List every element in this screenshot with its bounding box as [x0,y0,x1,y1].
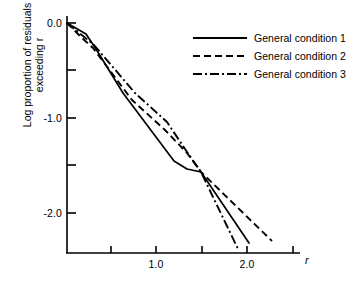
y-axis-label: Log proportion of residuals exceeding r [13,0,53,150]
legend-label-general-condition-2: General condition 2 [254,50,346,62]
y-tick-label-2: -2.0 [24,207,62,219]
legend-swatch-dashdot-icon [192,68,248,80]
x-tick-label-2: 2.0 [227,258,267,270]
legend-item-general-condition-1: General condition 1 [192,30,356,46]
y-axis-label-text: Log proportion of residuals exceeding r [21,3,46,127]
legend-label-general-condition-1: General condition 1 [254,32,346,44]
legend-swatch-dashed-icon [192,50,248,62]
chart-figure: 0.0 -1.0 -2.0 1.0 2.0 Log proportion of … [0,0,359,286]
legend-swatch-solid-icon [192,32,248,44]
chart-legend: General condition 1 General condition 2 … [192,30,356,84]
x-axis-ticks [111,246,293,253]
y-axis-ticks [67,23,76,213]
legend-item-general-condition-2: General condition 2 [192,48,356,64]
x-axis-label: r [305,254,309,266]
legend-label-general-condition-3: General condition 3 [254,68,346,80]
x-tick-label-1: 1.0 [136,258,176,270]
legend-item-general-condition-3: General condition 3 [192,66,356,82]
